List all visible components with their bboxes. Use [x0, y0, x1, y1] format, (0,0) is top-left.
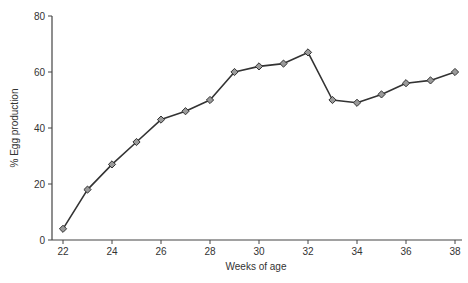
diamond-marker: [280, 60, 287, 67]
y-tick-label: 60: [34, 67, 46, 78]
diamond-marker: [59, 225, 66, 232]
diamond-marker: [304, 49, 311, 56]
x-tick-label: 28: [204, 246, 216, 257]
x-tick-label: 22: [57, 246, 69, 257]
diamond-marker: [182, 108, 189, 115]
x-tick-label: 30: [253, 246, 265, 257]
line-chart: 020406080 222426283032343638 Weeks of ag…: [0, 0, 468, 283]
x-tick-label: 36: [400, 246, 412, 257]
y-axis-title: % Egg production: [9, 89, 20, 168]
plot-area: [59, 49, 458, 233]
series-line: [63, 52, 455, 228]
y-axis: 020406080: [34, 11, 52, 246]
diamond-marker: [353, 99, 360, 106]
x-tick-label: 32: [302, 246, 314, 257]
y-tick-label: 20: [34, 179, 46, 190]
y-tick-label: 40: [34, 123, 46, 134]
y-tick-label: 0: [39, 235, 45, 246]
diamond-marker: [427, 77, 434, 84]
diamond-marker: [329, 96, 336, 103]
x-tick-label: 26: [155, 246, 167, 257]
diamond-marker: [255, 63, 262, 70]
x-tick-label: 24: [106, 246, 118, 257]
x-tick-label: 34: [351, 246, 363, 257]
diamond-marker: [451, 68, 458, 75]
x-tick-label: 38: [449, 246, 461, 257]
y-tick-label: 80: [34, 11, 46, 22]
diamond-marker: [378, 91, 385, 98]
x-axis-title: Weeks of age: [226, 261, 287, 272]
diamond-marker: [402, 80, 409, 87]
x-axis: 222426283032343638: [52, 240, 462, 257]
